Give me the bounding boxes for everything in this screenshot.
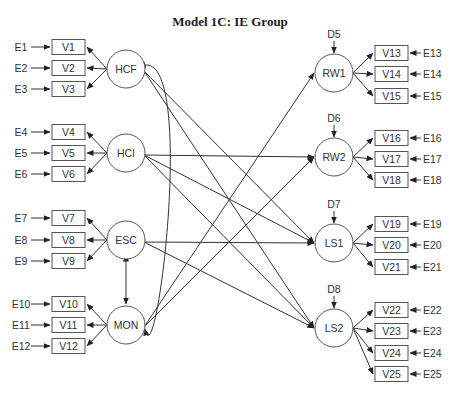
indicator-label-v3: V3 <box>62 83 75 95</box>
indicator-label-v1: V1 <box>62 41 75 53</box>
loading-arrow <box>353 157 373 159</box>
loading-arrow <box>353 310 373 328</box>
error-label-e9: E9 <box>15 255 28 267</box>
loading-arrow <box>353 73 373 74</box>
latent-label-rw2: RW2 <box>322 151 345 163</box>
error-label-e12: E12 <box>12 340 31 352</box>
error-label-e1: E1 <box>15 41 28 53</box>
latent-label-ls2: LS2 <box>325 322 344 334</box>
loading-arrow <box>353 157 373 180</box>
loading-arrow <box>87 218 107 240</box>
latent-label-mon: MON <box>114 319 139 331</box>
indicator-label-v21: V21 <box>382 261 401 273</box>
indicator-label-v12: V12 <box>59 340 78 352</box>
error-label-e8: E8 <box>15 234 28 246</box>
error-label-e10: E10 <box>12 298 31 310</box>
error-label-e22: E22 <box>423 304 442 316</box>
indicator-label-v16: V16 <box>382 132 401 144</box>
path-diagram-canvas: Model 1C: IE Group HCFV1E1V2E2V3E3HCIV4E… <box>0 0 460 398</box>
error-label-e17: E17 <box>423 153 442 165</box>
loading-arrow <box>353 243 373 245</box>
error-label-e5: E5 <box>15 147 28 159</box>
disturbance-label-d8: D8 <box>327 283 341 295</box>
error-label-e11: E11 <box>12 319 30 331</box>
error-label-e15: E15 <box>423 90 442 102</box>
error-label-e24: E24 <box>423 347 442 359</box>
indicator-label-v13: V13 <box>382 47 401 59</box>
indicator-label-v2: V2 <box>62 62 75 74</box>
indicator-label-v18: V18 <box>382 174 401 186</box>
diagram-title: Model 1C: IE Group <box>172 14 288 29</box>
loading-arrow <box>87 69 107 89</box>
loading-arrow <box>87 68 107 69</box>
latent-label-hci: HCI <box>117 147 135 159</box>
latent-label-hcf: HCF <box>115 63 137 75</box>
error-label-e20: E20 <box>423 239 442 251</box>
indicator-label-v5: V5 <box>62 147 75 159</box>
loading-arrow <box>353 328 373 374</box>
loading-arrow <box>353 73 373 96</box>
latent-label-rw1: RW1 <box>322 67 345 79</box>
latent-label-esc: ESC <box>115 234 137 246</box>
loading-arrow <box>353 243 373 267</box>
disturbance-label-d6: D6 <box>327 112 341 124</box>
error-label-e18: E18 <box>423 174 442 186</box>
path-esc-to-ls2 <box>144 242 314 328</box>
error-label-e19: E19 <box>423 218 442 230</box>
sem-diagram: Model 1C: IE Group HCFV1E1V2E2V3E3HCIV4E… <box>0 0 460 398</box>
indicator-label-v22: V22 <box>382 304 401 316</box>
loading-arrow <box>87 240 107 261</box>
indicator-label-v23: V23 <box>382 325 401 337</box>
error-label-e4: E4 <box>15 126 28 138</box>
paths-layer <box>31 41 421 374</box>
latent-label-ls1: LS1 <box>325 237 344 249</box>
loading-arrow <box>353 53 373 73</box>
nodes-layer: HCFV1E1V2E2V3E3HCIV4E4V5E5V6E6ESCV7E7V8E… <box>12 28 442 382</box>
error-label-e16: E16 <box>423 132 442 144</box>
error-label-e23: E23 <box>423 325 442 337</box>
error-label-e2: E2 <box>15 62 28 74</box>
indicator-label-v20: V20 <box>382 239 401 251</box>
indicator-label-v19: V19 <box>382 218 401 230</box>
indicator-label-v25: V25 <box>382 368 401 380</box>
error-label-e13: E13 <box>423 47 442 59</box>
indicator-label-v9: V9 <box>62 255 75 267</box>
disturbance-label-d7: D7 <box>327 198 341 210</box>
loading-arrow <box>353 138 373 157</box>
loading-arrow <box>87 153 107 174</box>
loading-arrow <box>87 132 107 153</box>
indicator-label-v4: V4 <box>62 126 75 138</box>
loading-arrow <box>87 47 107 69</box>
error-label-e21: E21 <box>423 261 442 273</box>
loading-arrow <box>353 328 373 353</box>
indicator-label-v10: V10 <box>59 298 78 310</box>
indicator-label-v24: V24 <box>382 347 401 359</box>
indicator-label-v11: V11 <box>60 319 78 331</box>
error-label-e25: E25 <box>423 368 442 380</box>
loading-arrow <box>87 325 107 346</box>
indicator-label-v8: V8 <box>62 234 75 246</box>
error-label-e3: E3 <box>15 83 28 95</box>
indicator-label-v6: V6 <box>62 168 75 180</box>
error-label-e14: E14 <box>423 68 442 80</box>
indicator-label-v14: V14 <box>382 68 401 80</box>
indicator-label-v15: V15 <box>382 90 401 102</box>
indicator-label-v17: V17 <box>382 153 401 165</box>
loading-arrow <box>87 304 107 325</box>
loading-arrow <box>353 224 373 243</box>
error-label-e7: E7 <box>15 212 28 224</box>
indicator-label-v7: V7 <box>62 212 75 224</box>
error-label-e6: E6 <box>15 168 28 180</box>
disturbance-label-d5: D5 <box>327 28 341 40</box>
loading-arrow <box>353 328 373 331</box>
